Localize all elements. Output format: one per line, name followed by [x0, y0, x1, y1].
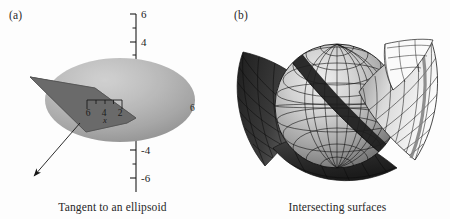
y-axis: 6 [190, 103, 195, 113]
z-axis-label-neg4: -4 [141, 144, 151, 156]
figure-root: (a) [0, 0, 450, 219]
panel-a-tangent-to-ellipsoid: (a) [0, 0, 225, 219]
z-axis-label-4: 4 [141, 36, 147, 48]
y-axis-label-6: 6 [190, 103, 195, 113]
z-axis-label-neg6: -6 [141, 172, 151, 184]
panel-b-intersecting-surfaces: (b) [225, 0, 450, 219]
z-axis-label-6: 6 [141, 8, 147, 20]
panel-a-caption: Tangent to an ellipsoid [0, 201, 225, 213]
x-axis-label-6: 6 [86, 108, 91, 118]
panel-a-plot: 6 4 -4 -6 6 [0, 0, 225, 219]
normal-vector-arrow [34, 123, 80, 176]
x-axis-variable-label: x [102, 115, 107, 125]
x-axis-label-2: 2 [118, 108, 123, 118]
normal-vector-shaft [34, 123, 80, 176]
panel-b-plot [225, 0, 450, 219]
panel-b-caption: Intersecting surfaces [225, 201, 450, 213]
